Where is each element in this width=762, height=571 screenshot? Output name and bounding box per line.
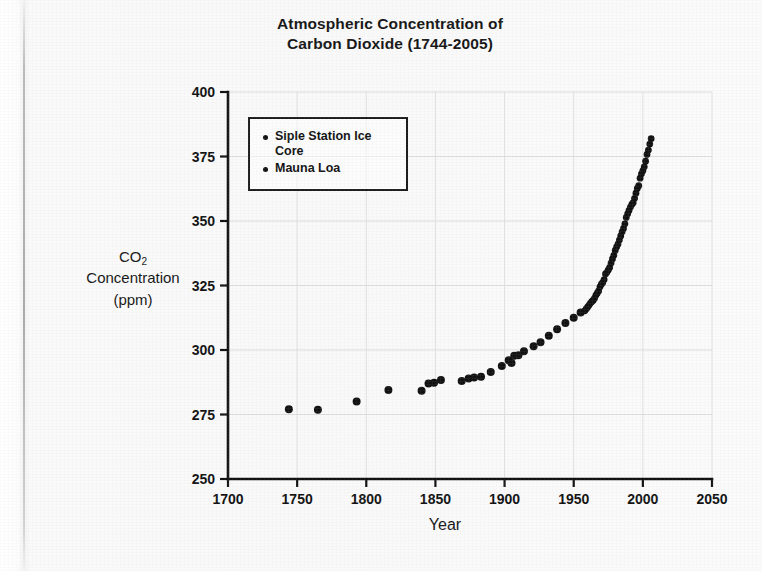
x-tick-label: 2050 [696,491,727,507]
chart-page: Atmospheric Concentration of Carbon Diox… [0,0,762,571]
x-tick-label: 1700 [212,491,243,507]
legend-item-label: Siple Station Ice Core [275,129,387,159]
legend-item-siple-station-ice-core: Siple Station Ice Core [263,129,387,159]
data-point [537,338,545,346]
x-tick-label: 1750 [282,491,313,507]
legend-dot-icon [263,135,268,140]
x-tick-label: 1950 [558,491,589,507]
data-point [635,182,642,189]
data-point [384,386,392,394]
y-tick-label: 300 [192,342,216,358]
data-point [553,325,561,333]
legend-item-mauna-loa: Mauna Loa [263,161,387,176]
x-tick-label: 2000 [627,491,658,507]
data-point [570,314,578,322]
data-point [487,368,495,376]
data-point [601,276,608,283]
plot-area: 2502753003253503754001700175018001850190… [0,0,762,571]
data-point [458,377,466,385]
y-tick-label: 250 [192,471,216,487]
data-point [561,319,569,327]
y-tick-label: 400 [192,84,216,100]
legend-item-label: Mauna Loa [275,161,387,176]
y-tick-label: 275 [192,407,216,423]
data-point [314,406,322,414]
data-point [645,147,652,154]
data-point [285,405,293,413]
data-point [530,342,538,350]
data-point [641,163,648,170]
x-tick-label: 1800 [351,491,382,507]
data-point [648,135,655,142]
data-point [470,374,478,382]
data-point [353,398,361,406]
legend: Siple Station Ice Core Mauna Loa [248,117,408,191]
data-point [621,220,628,227]
data-point [437,376,445,384]
data-point [477,373,485,381]
y-tick-label: 325 [192,278,216,294]
data-point [430,379,438,387]
legend-dot-icon [263,167,268,172]
data-point [418,387,426,395]
series-mauna-loa [581,135,654,314]
y-tick-label: 375 [192,149,216,165]
series-siple-station-ice-core [285,309,585,414]
data-point [507,359,515,367]
data-point [498,362,506,370]
x-tick-label: 1850 [420,491,451,507]
y-tick-label: 350 [192,213,216,229]
data-point [545,332,553,340]
x-tick-label: 1900 [489,491,520,507]
data-point [642,158,649,165]
data-point [520,347,528,355]
